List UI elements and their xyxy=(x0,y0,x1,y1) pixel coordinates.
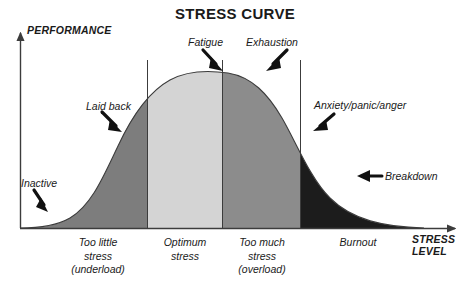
curve-fill-group xyxy=(20,55,430,230)
zone-fill-optimum xyxy=(147,55,223,230)
zone-fill-too-much xyxy=(222,55,301,230)
callout-label-laid-back: Laid back xyxy=(86,100,131,112)
zone-label-too-little-stress: Too little stress (underload) xyxy=(52,236,144,277)
zone-label-line1: Optimum xyxy=(148,236,222,250)
zone-label-line2: stress xyxy=(224,250,300,264)
callout-arrow-breakdown xyxy=(357,170,382,182)
callout-arrow-exhaustion xyxy=(266,50,287,71)
callout-arrow-fatigue xyxy=(203,50,223,71)
zone-label-line1: Too little xyxy=(52,236,144,250)
zone-label-line1: Burnout xyxy=(312,236,404,250)
y-axis-label: PERFORMANCE xyxy=(27,24,111,36)
stress-curve-diagram: STRESS CURVE xyxy=(0,0,470,285)
zone-label-line1: Too much xyxy=(224,236,300,250)
x-axis-label-line1: STRESS xyxy=(412,234,455,246)
callout-arrow-laid-back xyxy=(102,112,122,132)
callout-label-breakdown: Breakdown xyxy=(385,170,438,182)
callout-label-exhaustion: Exhaustion xyxy=(246,36,298,48)
callout-arrow-inactive xyxy=(34,190,48,212)
x-axis-label: STRESS LEVEL xyxy=(412,234,455,257)
callout-label-anxiety: Anxiety/panic/anger xyxy=(314,99,406,111)
callout-label-inactive: Inactive xyxy=(21,177,57,189)
zone-label-burnout: Burnout xyxy=(312,236,404,250)
zone-label-optimum-stress: Optimum stress xyxy=(148,236,222,263)
zone-fill-burnout xyxy=(300,55,430,230)
callout-arrow-anxiety xyxy=(313,114,334,131)
zone-label-line3: (overload) xyxy=(224,263,300,277)
zone-label-line2: stress xyxy=(148,250,222,264)
zone-label-line3: (underload) xyxy=(52,263,144,277)
callout-label-fatigue: Fatigue xyxy=(188,36,223,48)
zone-label-too-much-stress: Too much stress (overload) xyxy=(224,236,300,277)
zone-label-line2: stress xyxy=(52,250,144,264)
x-axis-label-line2: LEVEL xyxy=(412,246,455,258)
